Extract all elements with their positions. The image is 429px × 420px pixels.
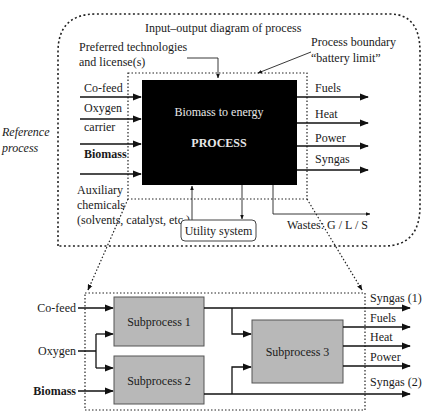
reference-process-diagram: Reference process Input–output diagram o… — [1, 14, 420, 246]
process-title: PROCESS — [191, 136, 247, 150]
preferred-tech-line1: Preferred technologies — [79, 40, 188, 54]
sub-output-heat-label: Heat — [370, 330, 393, 344]
boundary-label-line2: “battery limit” — [311, 51, 381, 65]
process-box — [142, 80, 297, 185]
process-subtitle: Biomass to energy — [174, 105, 263, 119]
preferred-tech-connector — [187, 58, 218, 78]
reference-label-line1: Reference — [1, 125, 50, 139]
process-diagram: Reference process Input–output diagram o… — [0, 0, 429, 420]
sub-output-syngas2-label: Syngas (2) — [370, 375, 422, 389]
input-cofeed-label: Co-feed — [84, 81, 123, 95]
subprocess-3-label: Subprocess 3 — [266, 345, 330, 359]
output-syngas-label: Syngas — [315, 152, 350, 166]
sub-input-oxygen-splitter — [78, 334, 96, 368]
boundary-pointer — [258, 52, 311, 73]
input-biomass-label: Biomass — [84, 147, 127, 161]
wastes-label: Wastes: G / L / S — [287, 218, 368, 232]
diagram-title: Input–output diagram of process — [145, 21, 302, 35]
output-power-label: Power — [315, 131, 346, 145]
subprocess-2-label: Subprocess 2 — [127, 374, 191, 388]
subprocess-diagram: Subprocess 1 Subprocess 2 Subprocess 3 C… — [33, 291, 421, 410]
reference-label-line2: process — [1, 141, 39, 155]
input-auxiliary-line3: (solvents, catalyst, etc.) — [77, 213, 190, 227]
sp1-to-sp3-arrow — [232, 308, 251, 334]
input-auxiliary-line2: chemicals — [77, 198, 125, 212]
output-fuels-label: Fuels — [315, 81, 341, 95]
sub-input-cofeed-label: Co-feed — [37, 301, 76, 315]
input-oxygen-label-line2: carrier — [84, 120, 115, 134]
zoom-projection-right — [307, 199, 362, 290]
sub-output-power-label: Power — [370, 350, 401, 364]
utility-system-label: Utility system — [185, 224, 253, 238]
output-heat-label: Heat — [315, 107, 338, 121]
input-oxygen-label-line1: Oxygen — [84, 101, 122, 115]
sub-input-oxygen-label: Oxygen — [38, 344, 76, 358]
wastes-arrow — [273, 185, 370, 214]
sub-output-syngas1-label: Syngas (1) — [370, 291, 422, 305]
input-auxiliary-line1: Auxiliary — [77, 183, 123, 197]
sub-input-biomass-label: Biomass — [33, 384, 76, 398]
sp2-to-sp3-arrow — [232, 367, 251, 394]
sub-output-fuels-label: Fuels — [370, 311, 396, 325]
subprocess-1-label: Subprocess 1 — [127, 315, 191, 329]
boundary-label-line1: Process boundary — [311, 35, 396, 49]
preferred-tech-line2: and license(s) — [79, 55, 145, 69]
